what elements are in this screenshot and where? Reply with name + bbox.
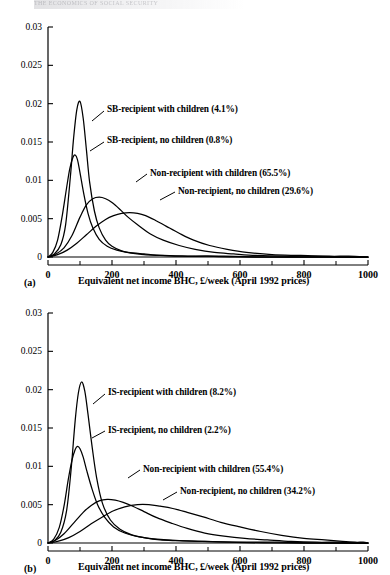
- leader-lines: [0, 12, 390, 292]
- panel-tag-b: (b): [24, 563, 36, 575]
- panel-tag-a: (a): [24, 277, 36, 289]
- leader-lines: [0, 298, 390, 575]
- figure-panel-b: 00.0050.010.0150.020.0250.03 02004006008…: [0, 298, 390, 575]
- figure-page: THE ECONOMICS OF SOCIAL SECURITY 00.0050…: [0, 0, 390, 575]
- series-annotation-label: SB-recipient with children (4.1%): [107, 104, 238, 115]
- x-axis-title-b: Equivalent net income BHC, £/week (April…: [78, 561, 309, 573]
- series-annotation-label: SB-recipient, no children (0.8%): [107, 135, 232, 146]
- x-axis-title-a: Equivalent net income BHC, £/week (April…: [78, 275, 309, 287]
- figure-panel-a: 00.0050.010.0150.020.0250.03 02004006008…: [0, 12, 390, 292]
- running-head: THE ECONOMICS OF SOCIAL SECURITY: [34, 0, 244, 9]
- series-annotation-label: Non-recipient, no children (29.6%): [178, 186, 313, 197]
- series-annotation-label: Non-recipient, no children (34.2%): [180, 486, 315, 497]
- series-annotation-label: Non-recipient with children (55.4%): [143, 464, 283, 475]
- series-annotation-label: IS-recipient with children (8.2%): [108, 387, 236, 398]
- series-annotation-label: IS-recipient, no children (2.2%): [108, 425, 231, 436]
- series-annotation-label: Non-recipient with children (65.5%): [150, 168, 290, 179]
